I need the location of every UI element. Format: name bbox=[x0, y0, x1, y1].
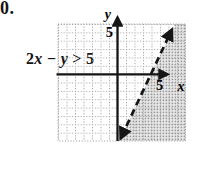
inequality-graph: y 5 5 x bbox=[0, 0, 203, 173]
y-axis-label: y bbox=[103, 7, 112, 22]
x-axis-label: x bbox=[177, 79, 185, 94]
textbook-figure: 0. 2x − y > 5 y 5 5 x bbox=[0, 0, 203, 173]
x-axis-tick-5: 5 bbox=[156, 77, 163, 93]
y-axis-tick-5: 5 bbox=[106, 24, 113, 40]
